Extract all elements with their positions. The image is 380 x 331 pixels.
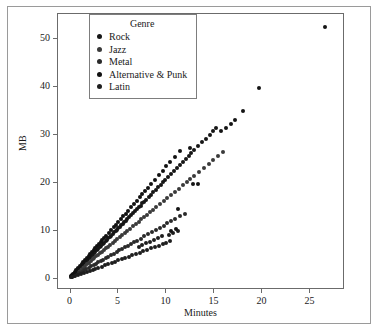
scatter-point bbox=[165, 196, 169, 200]
scatter-point bbox=[168, 160, 172, 164]
x-axis-tick bbox=[261, 288, 262, 293]
x-axis-tick-label: 0 bbox=[67, 296, 72, 306]
x-axis-label: Minutes bbox=[57, 307, 344, 318]
scatter-point bbox=[188, 177, 192, 181]
x-axis-tick-label: 5 bbox=[115, 296, 120, 306]
scatter-point bbox=[183, 212, 187, 216]
scatter-point bbox=[233, 118, 237, 122]
x-axis-tick bbox=[213, 288, 214, 293]
scatter-point bbox=[216, 154, 220, 158]
legend-marker-icon bbox=[97, 59, 102, 64]
scatter-point bbox=[214, 126, 218, 130]
scatter-point bbox=[185, 180, 189, 184]
scatter-point bbox=[178, 149, 182, 153]
scatter-point bbox=[184, 157, 188, 161]
scatter-point bbox=[135, 199, 139, 203]
scatter-point bbox=[208, 133, 212, 137]
scatter-point bbox=[229, 122, 233, 126]
scatter-point bbox=[173, 155, 177, 159]
y-axis-tick bbox=[53, 230, 58, 231]
scatter-point bbox=[197, 170, 201, 174]
legend-marker-icon bbox=[97, 47, 102, 52]
scatter-point bbox=[221, 150, 225, 154]
scatter-point bbox=[196, 182, 200, 186]
y-axis-tick bbox=[53, 278, 58, 279]
scatter-point bbox=[146, 186, 150, 190]
figure-container: 010203040500510152025 Minutes MB Genre R… bbox=[0, 0, 380, 331]
legend-entries: RockJazzMetalAlternative & PunkLatin bbox=[97, 31, 187, 93]
scatter-point bbox=[323, 25, 327, 29]
y-axis-tick-label: 20 bbox=[40, 177, 50, 187]
scatter-point bbox=[158, 202, 162, 206]
x-axis-tick-label: 10 bbox=[160, 296, 170, 306]
legend-item-label: Latin bbox=[109, 81, 130, 93]
scatter-point bbox=[161, 169, 165, 173]
y-axis-tick bbox=[53, 86, 58, 87]
scatter-point bbox=[202, 166, 206, 170]
scatter-point bbox=[173, 217, 177, 221]
scatter-point bbox=[164, 164, 168, 168]
scatter-point bbox=[154, 205, 158, 209]
y-axis-tick-label: 40 bbox=[40, 81, 50, 91]
scatter-point bbox=[191, 182, 195, 186]
legend: Genre RockJazzMetalAlternative & PunkLat… bbox=[89, 14, 197, 99]
scatter-point bbox=[177, 187, 181, 191]
scatter-point bbox=[157, 173, 161, 177]
scatter-point bbox=[192, 174, 196, 178]
x-axis-tick-label: 15 bbox=[208, 296, 218, 306]
scatter-point bbox=[162, 199, 166, 203]
x-axis-tick bbox=[165, 288, 166, 293]
scatter-point bbox=[176, 207, 180, 211]
y-axis-tick bbox=[53, 182, 58, 183]
legend-marker-icon bbox=[97, 72, 102, 77]
scatter-point bbox=[241, 109, 245, 113]
scatter-point bbox=[160, 234, 164, 238]
y-axis-tick bbox=[53, 38, 58, 39]
y-axis-tick-label: 30 bbox=[40, 129, 50, 139]
legend-item[interactable]: Rock bbox=[97, 31, 187, 43]
legend-item[interactable]: Metal bbox=[97, 56, 187, 68]
scatter-point bbox=[224, 126, 228, 130]
scatter-point bbox=[192, 148, 196, 152]
legend-marker-icon bbox=[97, 84, 102, 89]
x-axis-tick bbox=[117, 288, 118, 293]
scatter-point bbox=[211, 158, 215, 162]
legend-item[interactable]: Jazz bbox=[97, 44, 187, 56]
x-axis-tick-label: 25 bbox=[304, 296, 314, 306]
scatter-point bbox=[207, 162, 211, 166]
scatter-point bbox=[219, 129, 223, 133]
y-axis-tick bbox=[53, 134, 58, 135]
y-axis-tick-label: 0 bbox=[45, 273, 50, 283]
y-axis-label: MB bbox=[17, 135, 28, 151]
legend-title: Genre bbox=[97, 18, 187, 29]
scatter-point bbox=[204, 137, 208, 141]
y-axis-tick-label: 10 bbox=[40, 225, 50, 235]
scatter-point bbox=[149, 182, 153, 186]
x-axis-tick-label: 20 bbox=[256, 296, 266, 306]
x-axis-tick bbox=[70, 288, 71, 293]
scatter-point bbox=[196, 144, 200, 148]
scatter-point bbox=[200, 140, 204, 144]
x-axis-tick bbox=[309, 288, 310, 293]
scatter-point bbox=[129, 205, 133, 209]
legend-item-label: Metal bbox=[109, 56, 132, 68]
legend-item-label: Rock bbox=[109, 31, 130, 43]
legend-marker-icon bbox=[97, 34, 102, 39]
scatter-point bbox=[168, 239, 172, 243]
scatter-point bbox=[257, 86, 261, 90]
scatter-point bbox=[178, 214, 182, 218]
legend-item[interactable]: Alternative & Punk bbox=[97, 69, 187, 81]
legend-item-label: Alternative & Punk bbox=[109, 69, 187, 81]
legend-item-label: Jazz bbox=[109, 44, 126, 56]
scatter-point bbox=[126, 209, 130, 213]
y-axis-tick-label: 50 bbox=[40, 33, 50, 43]
scatter-point bbox=[153, 178, 157, 182]
scatter-point bbox=[181, 183, 185, 187]
legend-item[interactable]: Latin bbox=[97, 81, 187, 93]
